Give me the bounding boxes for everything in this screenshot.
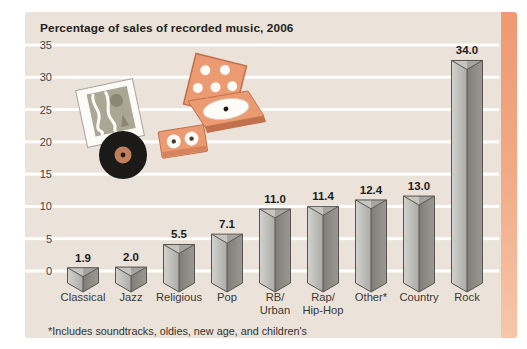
gridline-35 xyxy=(25,44,499,47)
value-label-pop: 7.1 xyxy=(219,218,236,230)
y-tick-0: 0 xyxy=(46,265,52,277)
y-tick-35: 35 xyxy=(40,39,52,51)
value-label-religious: 5.5 xyxy=(171,228,188,240)
bar-rb-urban xyxy=(260,209,291,292)
bar-jazz xyxy=(116,267,147,292)
decorative-illustrations xyxy=(76,53,266,179)
bar-country xyxy=(404,196,435,292)
bar-rap-hip-hop xyxy=(308,206,339,292)
category-label-rap-hip-hop: Rap/ xyxy=(311,291,336,303)
bar-rock xyxy=(452,60,483,292)
y-tick-5: 5 xyxy=(46,233,52,245)
value-label-rap-hip-hop: 11.4 xyxy=(312,190,334,202)
bar-other- xyxy=(356,200,387,292)
category-label-religious: Religious xyxy=(156,291,202,303)
value-label-classical: 1.9 xyxy=(75,252,91,264)
category-label-rb-urban: RB/ xyxy=(266,291,286,303)
y-tick-25: 25 xyxy=(40,104,52,116)
category-label-pop: Pop xyxy=(217,291,237,303)
value-label-country: 13.0 xyxy=(408,180,430,192)
vinyl-record-icon xyxy=(99,131,147,179)
value-label-other-: 12.4 xyxy=(360,184,383,196)
cassette-tape-icon xyxy=(158,125,208,159)
y-tick-10: 10 xyxy=(40,200,52,212)
category-labels: ClassicalJazzReligiousPopRB/UrbanRap/Hip… xyxy=(61,291,481,316)
bar-pop xyxy=(212,234,243,292)
y-tick-15: 15 xyxy=(40,168,52,180)
category-label-other-: Other* xyxy=(355,291,388,303)
bar-classical xyxy=(68,268,99,292)
y-axis-labels: 05101520253035 xyxy=(40,39,52,277)
y-tick-30: 30 xyxy=(40,71,52,83)
category-label-rb-urban: Urban xyxy=(260,304,290,316)
value-label-jazz: 2.0 xyxy=(123,251,139,263)
accent-strip xyxy=(501,12,517,338)
category-label-rap-hip-hop: Hip-Hop xyxy=(302,304,343,316)
category-label-country: Country xyxy=(399,291,439,303)
category-label-jazz: Jazz xyxy=(119,291,142,303)
y-tick-20: 20 xyxy=(40,136,52,148)
value-label-rock: 34.0 xyxy=(456,44,478,56)
category-label-rock: Rock xyxy=(454,291,480,303)
value-label-rb-urban: 11.0 xyxy=(264,193,286,205)
bar-religious xyxy=(164,244,195,292)
bar-chart: 05101520253035 ClassicalJazzReligiousPop… xyxy=(25,12,517,338)
gridline-30 xyxy=(25,76,499,79)
footnote: *Includes soundtracks, oldies, new age, … xyxy=(48,325,307,337)
chart-card: 05101520253035 ClassicalJazzReligiousPop… xyxy=(25,12,517,338)
category-label-classical: Classical xyxy=(61,291,106,303)
gridline-15 xyxy=(25,173,499,176)
cd-case-icon xyxy=(183,53,266,133)
chart-title: Percentage of sales of recorded music, 2… xyxy=(40,21,293,35)
